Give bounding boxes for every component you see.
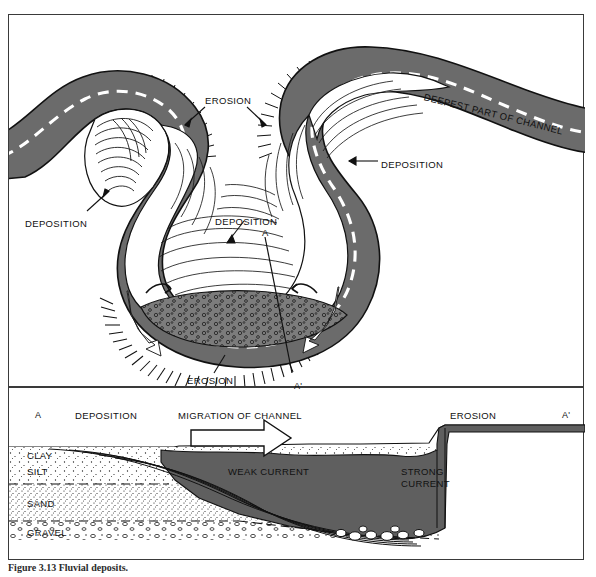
label-xs-migration-of-channel: MIGRATION OF CHANNEL — [178, 410, 302, 421]
figure-frame: EROSION DEEPEST PART OF CHANNEL DEPOSITI… — [8, 14, 584, 560]
label-section-marker-a: A — [262, 227, 269, 238]
label-deposition-right: DEPOSITION — [381, 159, 443, 170]
channel-cross-section: A DEPOSITION MIGRATION OF CHANNEL EROSIO… — [9, 388, 583, 559]
label-deposition-center: DEPOSITION — [215, 216, 277, 227]
label-erosion-top: EROSION — [205, 95, 251, 106]
label-erosion-bottom: EROSION — [187, 375, 233, 386]
label-weak-current: WEAK CURRENT — [228, 466, 309, 477]
label-xs-erosion: EROSION — [450, 410, 496, 421]
label-strong-current-1: STRONG — [401, 466, 444, 477]
label-stratum-gravel: GRAVEL — [27, 527, 67, 538]
label-xs-a-prime: A' — [562, 410, 570, 420]
meander-plan-view: EROSION DEEPEST PART OF CHANNEL DEPOSITI… — [9, 15, 583, 386]
label-xs-deposition: DEPOSITION — [75, 410, 137, 421]
label-stratum-silt: SILT — [27, 466, 48, 477]
plan-view-graphic — [9, 15, 585, 386]
figure-caption: Figure 3.13 Fluvial deposits. — [8, 562, 128, 577]
label-deposition-left: DEPOSITION — [25, 218, 87, 229]
label-stratum-clay: CLAY — [27, 450, 53, 461]
label-stratum-sand: SAND — [27, 498, 55, 509]
label-xs-a: A — [35, 410, 41, 420]
label-strong-current-2: CURRENT — [401, 478, 450, 489]
